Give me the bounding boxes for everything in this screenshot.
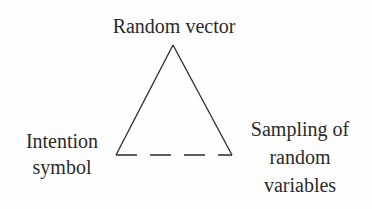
node-left-label: Intention symbol	[10, 128, 114, 180]
node-left-line-1: Intention	[10, 128, 114, 154]
node-right-label: Sampling of random variables	[236, 115, 364, 199]
diagram-canvas: Random vector Intention symbol Sampling …	[0, 0, 372, 209]
node-top-label: Random vector	[94, 13, 254, 39]
node-right-line-3: variables	[236, 171, 364, 199]
edge-top-right	[173, 45, 232, 155]
edge-top-left	[116, 45, 173, 155]
node-left-line-2: symbol	[10, 154, 114, 180]
node-right-line-1: Sampling of	[236, 115, 364, 143]
node-right-line-2: random	[236, 143, 364, 171]
